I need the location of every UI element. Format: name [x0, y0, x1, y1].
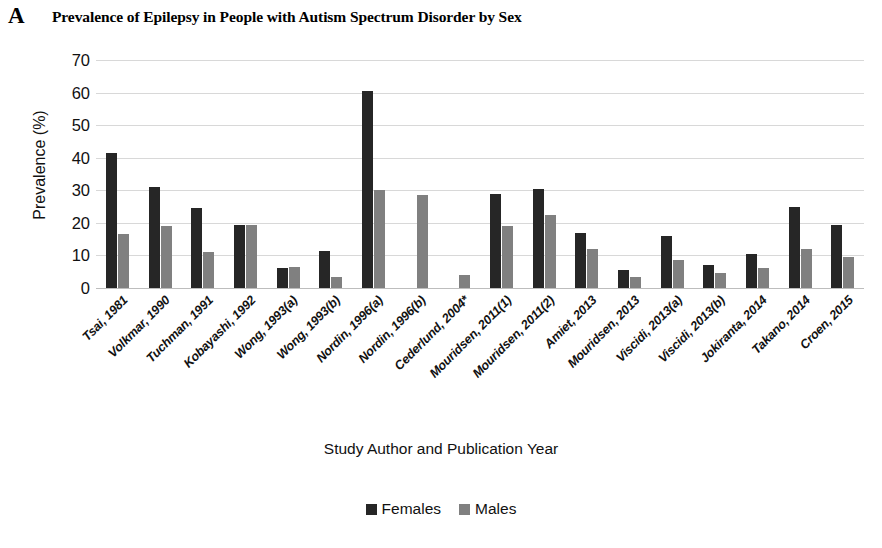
x-axis-tick-labels: Tsai, 1981Volkmar, 1990Tuchman, 1991Koba… — [96, 292, 864, 422]
legend-label: Males — [475, 500, 516, 518]
bar-males[interactable] — [843, 257, 854, 288]
bar-males[interactable] — [502, 226, 513, 288]
bar-females[interactable] — [362, 91, 373, 288]
legend-swatch-icon — [459, 504, 470, 515]
bar-group — [437, 60, 480, 288]
bar-group — [736, 60, 779, 288]
bar-males[interactable] — [758, 268, 769, 288]
bar-males[interactable] — [118, 234, 129, 288]
bar-females[interactable] — [149, 187, 160, 288]
x-label-slot: Takano, 2014 — [779, 292, 822, 422]
bar-males[interactable] — [459, 275, 470, 288]
bar-females[interactable] — [618, 270, 629, 288]
bar-males[interactable] — [801, 249, 812, 288]
bar-males[interactable] — [417, 195, 428, 288]
y-tick-0: 0 — [48, 280, 90, 297]
bar-females[interactable] — [789, 207, 800, 288]
bar-males[interactable] — [246, 225, 257, 289]
y-tick-70: 70 — [48, 52, 90, 69]
panel-letter: A — [8, 4, 25, 27]
y-tick-60: 60 — [48, 84, 90, 101]
bar-females[interactable] — [661, 236, 672, 288]
legend-item-males[interactable]: Males — [459, 500, 516, 518]
bar-group — [309, 60, 352, 288]
y-axis-label: Prevalence (%) — [31, 65, 49, 265]
legend-item-females[interactable]: Females — [366, 500, 441, 518]
bar-group — [608, 60, 651, 288]
bar-females[interactable] — [746, 254, 757, 288]
y-tick-20: 20 — [48, 215, 90, 232]
bar-group — [96, 60, 139, 288]
y-tick-50: 50 — [48, 117, 90, 134]
bar-females[interactable] — [831, 225, 842, 289]
bar-groups — [96, 60, 864, 288]
plot-area: Prevalence (%) 706050403020100 — [0, 60, 882, 300]
bar-females[interactable] — [106, 153, 117, 288]
bar-group — [480, 60, 523, 288]
bar-group — [779, 60, 822, 288]
x-label-slot: Jokiranta, 2014 — [736, 292, 779, 422]
chart-legend: FemalesMales — [0, 500, 882, 518]
legend-swatch-icon — [366, 504, 377, 515]
bar-group — [224, 60, 267, 288]
bar-group — [693, 60, 736, 288]
bar-males[interactable] — [161, 226, 172, 288]
bar-group — [267, 60, 310, 288]
y-axis-tick-labels: 706050403020100 — [48, 60, 90, 288]
y-tick-40: 40 — [48, 149, 90, 166]
bar-females[interactable] — [191, 208, 202, 288]
bar-females[interactable] — [490, 194, 501, 288]
bar-males[interactable] — [630, 277, 641, 288]
bar-group — [651, 60, 694, 288]
bar-males[interactable] — [673, 260, 684, 288]
bar-group — [565, 60, 608, 288]
chart-title: Prevalence of Epilepsy in People with Au… — [52, 8, 852, 26]
bar-males[interactable] — [289, 267, 300, 288]
bar-group — [395, 60, 438, 288]
bar-males[interactable] — [203, 252, 214, 288]
gridline-0 — [96, 288, 864, 289]
bar-males[interactable] — [587, 249, 598, 288]
bar-males[interactable] — [331, 277, 342, 288]
bar-group — [352, 60, 395, 288]
x-label-slot: Croen, 2015 — [821, 292, 864, 422]
bar-females[interactable] — [703, 265, 714, 288]
x-label-slot: Mouridsen, 2011(2) — [523, 292, 566, 422]
y-tick-30: 30 — [48, 182, 90, 199]
bar-females[interactable] — [575, 233, 586, 288]
bar-males[interactable] — [374, 190, 385, 288]
bar-females[interactable] — [319, 251, 330, 288]
bar-females[interactable] — [533, 189, 544, 288]
bar-group — [821, 60, 864, 288]
bar-group — [523, 60, 566, 288]
bar-males[interactable] — [545, 215, 556, 288]
bar-females[interactable] — [234, 225, 245, 289]
legend-label: Females — [382, 500, 441, 518]
bar-group — [139, 60, 182, 288]
bar-males[interactable] — [715, 273, 726, 288]
bar-females[interactable] — [277, 268, 288, 288]
y-tick-10: 10 — [48, 247, 90, 264]
x-axis-title: Study Author and Publication Year — [0, 440, 882, 458]
bar-group — [181, 60, 224, 288]
